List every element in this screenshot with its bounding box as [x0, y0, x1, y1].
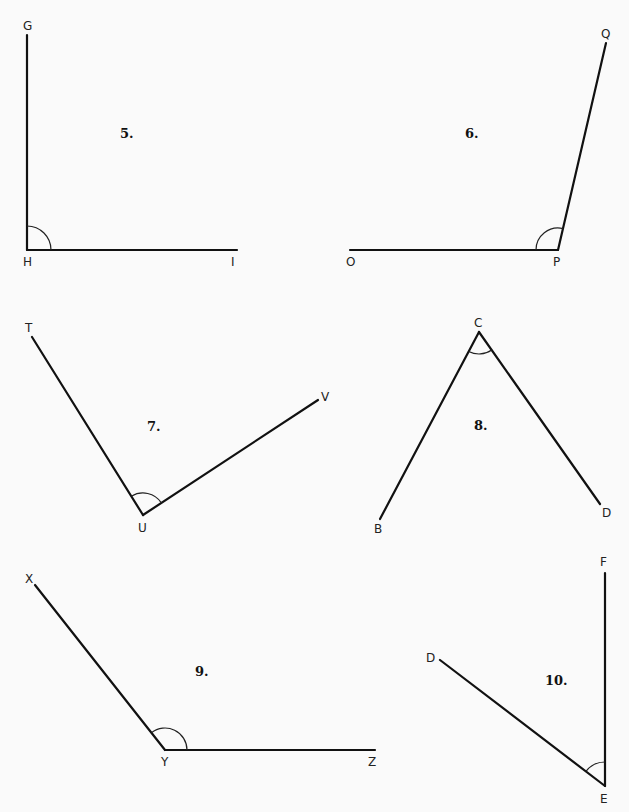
angle-problem-6: OPQ6.	[346, 27, 610, 269]
angle-arc-icon	[27, 226, 51, 250]
angle-problem-10: DEF10.	[426, 555, 608, 806]
problem-number: 9.	[195, 664, 209, 679]
ray-YX	[35, 585, 165, 750]
angles-worksheet: GHI5.OPQ6.TUV7.BCD8.XYZ9.DEF10.	[0, 0, 629, 812]
angle-arc-icon	[131, 493, 161, 503]
problem-number: 7.	[147, 419, 161, 434]
point-label-O: O	[346, 255, 355, 269]
point-label-Y: Y	[160, 755, 169, 769]
ray-UV	[143, 400, 318, 515]
angle-problem-7: TUV7.	[24, 321, 330, 535]
point-label-P: P	[553, 255, 560, 269]
point-label-T: T	[24, 321, 33, 335]
point-label-B: B	[374, 522, 382, 536]
angle-arc-icon	[469, 350, 492, 354]
ray-CD	[479, 332, 600, 504]
ray-PQ	[558, 43, 606, 250]
problem-number: 10.	[545, 673, 568, 688]
point-label-Q: Q	[601, 27, 610, 41]
angle-problem-8: BCD8.	[374, 316, 611, 536]
point-label-X: X	[25, 572, 33, 586]
point-label-V: V	[321, 390, 330, 404]
angle-problem-5: GHI5.	[23, 19, 237, 269]
problem-number: 5.	[120, 126, 134, 141]
angle-problem-9: XYZ9.	[25, 572, 376, 769]
point-label-F: F	[600, 555, 607, 569]
point-label-E: E	[600, 792, 608, 806]
point-label-D: D	[426, 651, 435, 665]
ray-CB	[380, 332, 479, 519]
point-label-C: C	[474, 316, 482, 330]
point-label-G: G	[23, 19, 32, 33]
point-label-U: U	[138, 521, 147, 535]
problem-number: 6.	[465, 126, 479, 141]
point-label-D: D	[602, 506, 611, 520]
problem-number: 8.	[474, 418, 488, 433]
angle-arc-icon	[586, 762, 605, 771]
point-label-I: I	[231, 255, 235, 269]
ray-UT	[32, 337, 143, 515]
point-label-H: H	[23, 255, 32, 269]
point-label-Z: Z	[368, 755, 376, 769]
ray-ED	[440, 660, 605, 786]
